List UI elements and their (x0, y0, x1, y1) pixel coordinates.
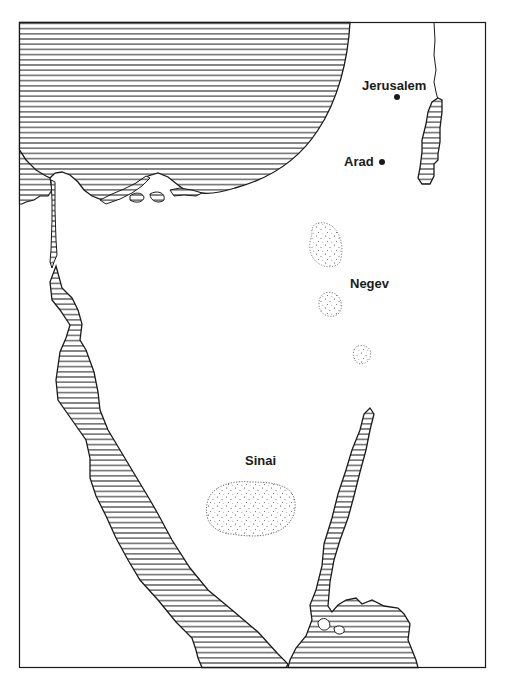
sinai-label: Sinai (245, 453, 276, 468)
negev-patch-3 (353, 346, 370, 365)
jerusalem-label: Jerusalem (362, 78, 426, 93)
negev-patch-2 (319, 292, 342, 316)
tiran-island-2 (334, 626, 344, 634)
delta-lagoon-3 (150, 192, 164, 202)
arad-marker (379, 159, 385, 165)
jordan-river (434, 23, 438, 101)
map-canvas (0, 0, 505, 684)
negev-patch-1 (310, 223, 342, 267)
negev-label: Negev (350, 276, 389, 291)
jerusalem-marker (394, 94, 400, 100)
dead-sea (418, 98, 442, 184)
suez-canal (50, 180, 57, 268)
gulf-of-aqaba (288, 408, 418, 668)
delta-lagoon-2 (130, 193, 144, 202)
arad-label: Arad (344, 154, 374, 169)
mediterranean-sea (20, 23, 351, 201)
sinai-patch (207, 482, 296, 536)
tiran-island-1 (318, 619, 330, 631)
